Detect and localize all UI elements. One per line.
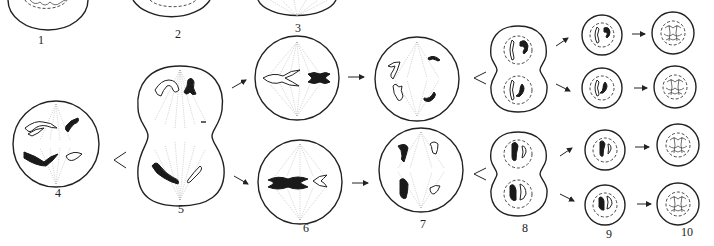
cell-stage-9-d: [585, 185, 625, 225]
stage-label-3: 3: [295, 22, 301, 34]
cell-stage-5: [138, 66, 224, 206]
cell-stage-7: [379, 128, 463, 212]
cell-stage-9-a: [582, 15, 622, 55]
stage-label-6: 6: [303, 222, 309, 234]
cell-stage-1: [8, 0, 88, 30]
stage-label-7: 7: [420, 218, 426, 230]
arrow-icon: [556, 84, 570, 91]
cell-stage-10-a: [652, 12, 694, 54]
cell-stage-3: [258, 0, 336, 16]
cell-stage-9-b: [582, 68, 622, 108]
arrow-icon: [234, 176, 248, 184]
arrows: [114, 34, 651, 204]
cell-stage-8-lower: [491, 132, 547, 216]
arrow-icon: [232, 80, 246, 88]
cell-anaphase-ii-upper: [375, 37, 459, 121]
stage-label-5: 5: [178, 203, 184, 215]
stage-label-4: 4: [55, 187, 61, 199]
stage-label-1: 1: [38, 34, 44, 46]
arrow-icon: [556, 38, 568, 46]
stage-label-9: 9: [606, 228, 612, 240]
cell-stage-2: [133, 0, 210, 17]
cell-stage-9-c: [585, 130, 625, 170]
meiosis-diagram: 1 2 3 4 5 6 7 8 9 10: [0, 0, 714, 246]
cell-stage-10-d: [657, 183, 699, 225]
cell-stage-10-b: [654, 66, 696, 108]
cell-stage-6: [258, 140, 342, 224]
arrow-icon: [560, 194, 574, 201]
cell-metaphase-ii-upper: [255, 36, 339, 120]
diagram-canvas: [0, 0, 714, 246]
fork-arrow-icon: [474, 72, 486, 84]
cell-stage-8-upper: [491, 26, 547, 112]
cell-stage-10-c: [657, 124, 699, 166]
cell-stage-4: [13, 101, 99, 187]
stage-label-2: 2: [175, 28, 181, 40]
fork-arrow-icon: [474, 168, 486, 180]
stage-label-10: 10: [681, 226, 693, 238]
stage-label-8: 8: [522, 222, 528, 234]
arrow-icon: [560, 148, 572, 156]
fork-arrow-icon: [114, 152, 126, 168]
